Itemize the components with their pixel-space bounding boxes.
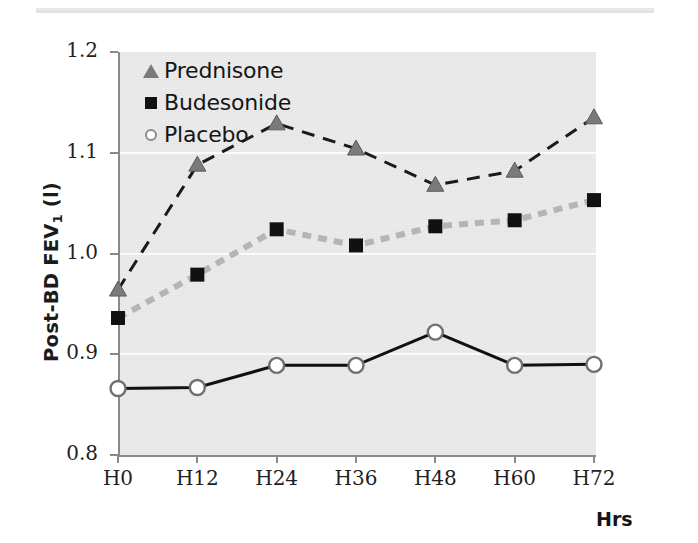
x-tick-label-H36: H36 [321, 466, 391, 490]
chart-legend: PrednisoneBudesonidePlacebo [138, 56, 291, 149]
y-tick-mark [110, 353, 118, 355]
legend-label: Budesonide [164, 90, 291, 115]
x-tick-label-H24: H24 [242, 466, 312, 490]
y-axis-title: Post-BD FEV1 (l) [34, 52, 68, 492]
x-tick-mark [117, 455, 119, 463]
legend-item-placebo: Placebo [138, 120, 291, 149]
y-tick-mark [110, 51, 118, 53]
x-tick-mark [196, 455, 198, 463]
y-tick-label-0.9: 0.9 [34, 340, 98, 364]
y-tick-label-1.1: 1.1 [34, 139, 98, 163]
y-tick-label-0.8: 0.8 [34, 441, 98, 465]
gridline-y-0.9 [120, 353, 596, 355]
x-tick-label-H60: H60 [480, 466, 550, 490]
gridline-y-1.1 [120, 152, 596, 154]
x-tick-label-H48: H48 [400, 466, 470, 490]
x-tick-mark [434, 455, 436, 463]
y-tick-mark [110, 152, 118, 154]
x-tick-mark [593, 455, 595, 463]
x-tick-mark [514, 455, 516, 463]
legend-label: Prednisone [164, 58, 283, 83]
y-tick-label-1.2: 1.2 [34, 38, 98, 62]
y-tick-mark [110, 253, 118, 255]
open-circle-marker-icon [145, 129, 157, 141]
legend-item-budesonide: Budesonide [138, 88, 291, 117]
x-axis-title: Hrs [596, 508, 633, 530]
legend-marker-wrap [138, 97, 164, 109]
x-tick-label-H12: H12 [162, 466, 232, 490]
x-tick-mark [276, 455, 278, 463]
x-tick-mark [355, 455, 357, 463]
scan-artifact-strip-secondary [36, 11, 654, 13]
y-tick-label-1.0: 1.0 [34, 240, 98, 264]
y-axis-title-subscript: 1 [50, 214, 65, 223]
legend-marker-wrap [138, 129, 164, 141]
square-marker-icon [145, 97, 157, 109]
triangle-marker-icon [143, 64, 159, 78]
x-tick-label-H0: H0 [83, 466, 153, 490]
x-tick-label-H72: H72 [559, 466, 629, 490]
legend-marker-wrap [138, 64, 164, 78]
legend-item-prednisone: Prednisone [138, 56, 291, 85]
legend-label: Placebo [164, 122, 249, 147]
y-axis-title-unit: (l) [40, 182, 63, 214]
gridline-y-1.0 [120, 253, 596, 255]
figure-canvas: Post-BD FEV1 (l) 1.21.11.00.90.8 H0H12H2… [0, 0, 698, 543]
